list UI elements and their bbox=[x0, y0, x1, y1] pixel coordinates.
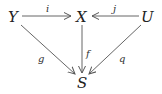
label-i: i bbox=[46, 3, 49, 14]
arrow-q bbox=[89, 25, 141, 74]
label-j: j bbox=[111, 3, 116, 14]
node-Y: Y bbox=[8, 8, 20, 26]
node-U: U bbox=[141, 8, 155, 26]
node-X: X bbox=[75, 8, 88, 26]
label-g: g bbox=[38, 53, 44, 64]
node-S: S bbox=[77, 74, 87, 92]
label-f: f bbox=[85, 48, 92, 59]
label-q: q bbox=[119, 53, 125, 64]
arrow-g bbox=[21, 25, 75, 74]
commutative-diagram: Y X U S i j g f q bbox=[0, 0, 162, 94]
